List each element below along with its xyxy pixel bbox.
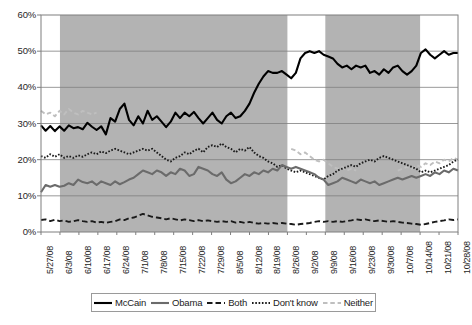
legend-item-both: Both [207,297,247,308]
legend-item-obama: Obama [151,297,202,308]
y-axis-tick-label: 10% [0,190,36,201]
x-axis-tick-label: 7/22/08 [197,246,207,274]
legend-label: Both [228,297,247,308]
x-axis-tick-label: 7/15/08 [178,246,188,274]
y-axis-tick-label: 20% [0,154,36,165]
x-axis-tick-label: 6/17/08 [102,246,112,274]
x-axis-tick-label: 10/21/08 [443,241,453,274]
x-axis-tick-label: 9/2/08 [310,251,320,274]
legend-swatch-solid [94,299,112,307]
x-axis-tick-label: 10/7/08 [405,246,415,274]
x-axis-tick-label: 6/24/08 [121,246,131,274]
x-axis-tick-label: 8/26/08 [291,246,301,274]
legend-label: Neither [344,297,373,308]
x-axis-tick-label: 9/9/08 [329,251,339,274]
y-axis-tick-label: 0% [0,226,36,237]
x-axis-tick-label: 8/5/08 [235,251,245,274]
x-axis-tick-label: 9/23/08 [367,246,377,274]
legend-swatch-dotted [252,299,270,307]
x-axis-tick-label: 7/29/08 [216,246,226,274]
legend-swatch-solid [151,299,169,307]
x-axis-tick-label: 5/27/08 [45,246,55,274]
x-axis-tick-label: 8/12/08 [254,246,264,274]
x-axis-tick-label: 10/28/08 [462,241,472,274]
x-axis-tick-label: 7/1/08 [140,251,150,274]
legend-label: McCain [115,297,146,308]
legend-item-neither: Neither [323,297,373,308]
chart-legend: McCainObamaBothDon't knowNeither [91,293,376,312]
y-axis-tick-label: 60% [0,9,36,20]
y-axis-tick-label: 30% [0,118,36,129]
x-axis-tick-label: 7/8/08 [159,251,169,274]
legend-swatch-dashed-light [323,299,341,307]
y-axis-tick-label: 40% [0,81,36,92]
x-axis-tick-label: 9/30/08 [386,246,396,274]
x-axis-tick-label: 6/10/08 [83,246,93,274]
legend-label: Don't know [273,297,318,308]
x-axis-tick-label: 6/3/08 [64,251,74,274]
legend-item-mccain: McCain [94,297,146,308]
legend-swatch-dashed-long [207,299,225,307]
x-axis-tick-label: 10/14/08 [424,241,434,274]
y-axis-tick-label: 50% [0,45,36,56]
x-axis-tick-label: 8/19/08 [272,246,282,274]
x-axis-tick-label: 9/16/08 [348,246,358,274]
legend-label: Obama [172,297,202,308]
legend-item-don-t-know: Don't know [252,297,318,308]
